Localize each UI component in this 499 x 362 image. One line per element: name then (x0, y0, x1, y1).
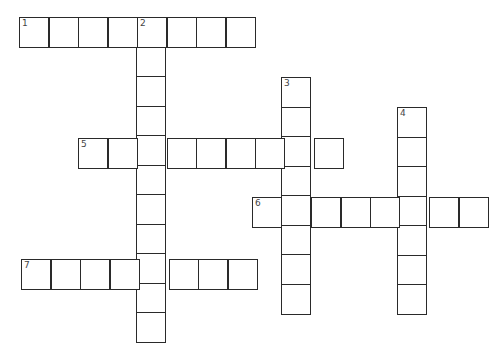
clue-number: 3 (284, 78, 290, 89)
crossword-cell[interactable] (228, 259, 258, 290)
crossword-cell[interactable] (136, 194, 166, 225)
crossword-cell[interactable]: 5 (78, 138, 108, 169)
crossword-cell[interactable] (341, 197, 371, 228)
clue-number: 6 (255, 198, 261, 209)
crossword-cell[interactable] (136, 106, 166, 137)
crossword-cell[interactable] (226, 138, 256, 169)
crossword-cell[interactable] (169, 259, 199, 290)
crossword-cell[interactable] (78, 17, 108, 48)
crossword-cell[interactable]: 2 (137, 17, 167, 48)
crossword-cell[interactable]: 3 (281, 77, 311, 108)
crossword-cell[interactable] (459, 197, 489, 228)
crossword-cell[interactable] (110, 259, 140, 290)
crossword-cell[interactable] (255, 138, 285, 169)
crossword-cell[interactable] (51, 259, 81, 290)
crossword-cell[interactable] (167, 138, 197, 169)
crossword-cell[interactable] (136, 135, 166, 166)
crossword-cell[interactable] (136, 224, 166, 255)
crossword-cell[interactable] (80, 259, 110, 290)
crossword-cell[interactable] (196, 17, 226, 48)
crossword-cell[interactable] (397, 284, 427, 315)
crossword-cell[interactable]: 7 (21, 259, 51, 290)
crossword-cell[interactable] (49, 17, 79, 48)
crossword-cell[interactable] (108, 17, 138, 48)
crossword-cell[interactable] (136, 47, 166, 78)
crossword-cell[interactable] (370, 197, 400, 228)
crossword-cell[interactable] (108, 138, 138, 169)
crossword-cell[interactable] (281, 166, 311, 197)
crossword-cell[interactable] (281, 225, 311, 256)
crossword-cell[interactable] (281, 284, 311, 315)
crossword-cell[interactable] (281, 136, 311, 167)
clue-number: 1 (22, 18, 28, 29)
crossword-cell[interactable] (397, 137, 427, 168)
clue-number: 4 (400, 108, 406, 119)
crossword-cell[interactable] (136, 253, 166, 284)
clue-number: 7 (24, 260, 30, 271)
crossword-cell[interactable] (397, 196, 427, 227)
crossword-cell[interactable] (281, 107, 311, 138)
crossword-cell[interactable]: 1 (19, 17, 49, 48)
crossword-cell[interactable] (281, 195, 311, 226)
crossword-cell[interactable] (226, 17, 256, 48)
crossword-cell[interactable] (397, 255, 427, 286)
crossword-cell[interactable] (136, 165, 166, 196)
crossword-cell[interactable] (167, 17, 197, 48)
crossword-cell[interactable] (198, 259, 228, 290)
clue-number: 2 (140, 18, 146, 29)
crossword-cell[interactable] (397, 225, 427, 256)
clue-number: 5 (81, 139, 87, 150)
crossword-cell[interactable] (136, 76, 166, 107)
crossword-cell[interactable] (136, 283, 166, 314)
crossword-cell[interactable] (136, 312, 166, 343)
crossword-cell[interactable] (314, 138, 344, 169)
crossword-grid: 1234567 (0, 0, 499, 362)
crossword-cell[interactable] (429, 197, 459, 228)
crossword-cell[interactable] (397, 166, 427, 197)
crossword-cell[interactable] (281, 254, 311, 285)
crossword-cell[interactable] (196, 138, 226, 169)
crossword-cell[interactable]: 4 (397, 107, 427, 138)
crossword-cell[interactable] (311, 197, 341, 228)
crossword-cell[interactable]: 6 (252, 197, 282, 228)
